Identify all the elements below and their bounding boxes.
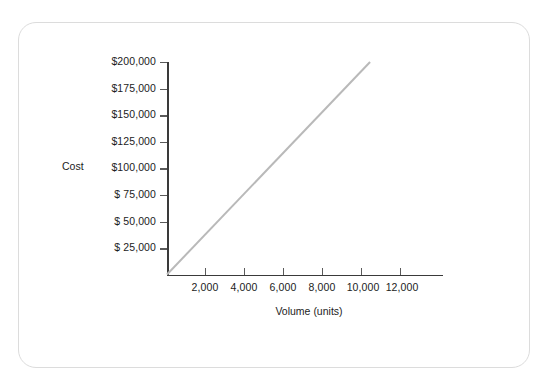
chart-plot-area: $200,000 $175,000 $150,000 $125,000 $100… (0, 0, 556, 392)
cost-line-series (167, 62, 370, 275)
chart-series-layer (0, 0, 556, 392)
